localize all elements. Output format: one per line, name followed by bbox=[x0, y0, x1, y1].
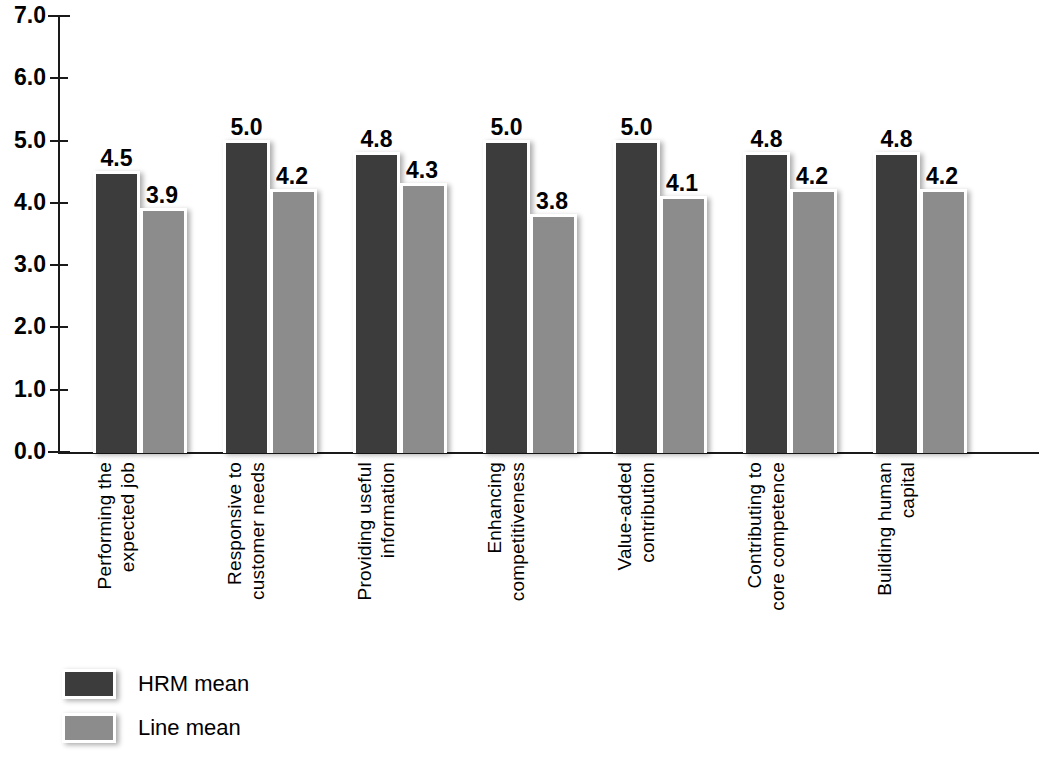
bar-line-mean: 3.9 bbox=[140, 208, 187, 453]
bar-value-label: 3.8 bbox=[533, 190, 585, 213]
bar-value-label: 5.0 bbox=[226, 116, 267, 139]
bar-group: 4.84.2 bbox=[873, 16, 967, 453]
x-axis-label-line: capital bbox=[898, 462, 918, 518]
x-axis-label-5: Value-addedcontribution bbox=[615, 462, 745, 642]
bar-line-mean: 4.1 bbox=[660, 196, 707, 453]
x-axis-label-2: Responsive tocustomer needs bbox=[225, 462, 355, 642]
legend-color-swatch bbox=[62, 713, 116, 743]
bar-hrm-mean: 5.0 bbox=[613, 140, 660, 453]
bar-hrm-mean: 4.8 bbox=[353, 152, 400, 453]
x-axis-label-line: core competence bbox=[768, 462, 788, 611]
x-axis-label-line: contribution bbox=[638, 462, 658, 563]
y-axis-tick-label: 5.0 bbox=[0, 129, 46, 152]
chart-legend: HRM meanLine mean bbox=[62, 662, 362, 750]
bar-value-label: 4.2 bbox=[273, 165, 325, 188]
plot-area: 4.53.95.04.24.84.35.03.85.04.14.84.24.84… bbox=[60, 16, 1039, 453]
bar-value-label: 4.8 bbox=[876, 128, 917, 151]
bar-hrm-mean: 5.0 bbox=[223, 140, 270, 453]
bar-chart: 7.06.05.04.03.02.01.00.0 4.53.95.04.24.8… bbox=[0, 0, 1041, 765]
bar-value-label: 4.8 bbox=[746, 128, 787, 151]
legend-item: HRM mean bbox=[62, 662, 362, 706]
x-axis-label-line: Providing useful bbox=[355, 462, 375, 600]
y-axis-tick-label: 6.0 bbox=[0, 66, 46, 89]
x-axis-label-line: Enhancing bbox=[485, 462, 505, 554]
x-axis-label-line: competitiveness bbox=[508, 462, 528, 601]
bar-group: 4.84.2 bbox=[743, 16, 837, 453]
x-axis-label-line: information bbox=[378, 462, 398, 558]
legend-label: HRM mean bbox=[138, 673, 249, 695]
bar-line-mean: 4.3 bbox=[400, 183, 447, 453]
bar-value-label: 4.3 bbox=[403, 159, 455, 182]
bar-value-label: 5.0 bbox=[486, 116, 527, 139]
x-axis-label-line: Performing the bbox=[95, 462, 115, 589]
bar-group: 4.53.9 bbox=[93, 16, 187, 453]
y-axis-tick-label: 1.0 bbox=[0, 378, 46, 401]
bar-line-mean: 4.2 bbox=[270, 189, 317, 453]
bar-value-label: 4.8 bbox=[356, 128, 397, 151]
x-axis-label-line: Building human bbox=[875, 462, 895, 596]
bar-line-mean: 3.8 bbox=[530, 214, 577, 453]
bar-hrm-mean: 4.8 bbox=[873, 152, 920, 453]
bar-line-mean: 4.2 bbox=[920, 189, 967, 453]
bar-value-label: 4.1 bbox=[663, 172, 715, 195]
bar-value-label: 4.2 bbox=[793, 165, 845, 188]
bar-line-mean: 4.2 bbox=[790, 189, 837, 453]
x-axis-label-7: Building humancapital bbox=[875, 462, 1005, 642]
x-axis-label-3: Providing usefulinformation bbox=[355, 462, 485, 642]
legend-color-swatch bbox=[62, 669, 116, 699]
x-axis-label-line: customer needs bbox=[248, 462, 268, 600]
x-axis-label-line: Contributing to bbox=[745, 462, 765, 589]
bar-hrm-mean: 4.8 bbox=[743, 152, 790, 453]
y-axis-tick-label: 4.0 bbox=[0, 191, 46, 214]
y-axis-tick-label: 3.0 bbox=[0, 253, 46, 276]
bar-value-label: 5.0 bbox=[616, 116, 657, 139]
y-axis-tick-label: 7.0 bbox=[0, 4, 46, 27]
x-axis-label-line: Responsive to bbox=[225, 462, 245, 585]
bar-value-label: 4.2 bbox=[923, 165, 975, 188]
bar-group: 5.03.8 bbox=[483, 16, 577, 453]
x-axis-label-line: expected job bbox=[118, 462, 138, 572]
bar-value-label: 3.9 bbox=[143, 184, 195, 207]
bar-group: 4.84.3 bbox=[353, 16, 447, 453]
legend-item: Line mean bbox=[62, 706, 362, 750]
y-axis-tick-label: 2.0 bbox=[0, 315, 46, 338]
y-axis-tick-label: 0.0 bbox=[0, 440, 46, 463]
bar-hrm-mean: 4.5 bbox=[93, 171, 140, 453]
legend-label: Line mean bbox=[138, 717, 241, 739]
bar-value-label: 4.5 bbox=[96, 147, 137, 170]
x-axis-label-1: Performing theexpected job bbox=[95, 462, 225, 642]
bar-hrm-mean: 5.0 bbox=[483, 140, 530, 453]
bar-group: 5.04.1 bbox=[613, 16, 707, 453]
bar-group: 5.04.2 bbox=[223, 16, 317, 453]
x-axis-label-line: Value-added bbox=[615, 462, 635, 571]
x-axis-label-4: Enhancingcompetitiveness bbox=[485, 462, 615, 642]
x-axis-label-6: Contributing tocore competence bbox=[745, 462, 875, 642]
